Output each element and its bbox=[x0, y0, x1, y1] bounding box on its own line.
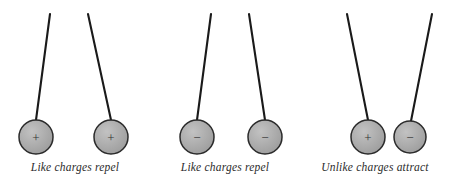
charge-sign-left: + bbox=[32, 130, 39, 145]
group-unlike: + − bbox=[347, 14, 432, 154]
thread-left bbox=[36, 14, 50, 120]
charge-interaction-figure: + + − − + − Like charges repel Like char… bbox=[0, 0, 450, 181]
thread-left bbox=[197, 14, 211, 120]
thread-right bbox=[411, 14, 432, 121]
charge-sign-right: − bbox=[406, 130, 413, 145]
group-like-positive: + + bbox=[19, 14, 128, 154]
pendulum-diagram: + + − − + − bbox=[0, 0, 450, 181]
charge-sign-left: − bbox=[193, 130, 200, 145]
charge-sign-right: + bbox=[107, 130, 114, 145]
charge-sign-left: + bbox=[364, 130, 371, 145]
thread-right bbox=[88, 14, 111, 120]
thread-left bbox=[347, 14, 368, 120]
group-like-negative: − − bbox=[180, 14, 282, 154]
thread-right bbox=[249, 14, 265, 120]
charge-sign-right: − bbox=[261, 130, 268, 145]
